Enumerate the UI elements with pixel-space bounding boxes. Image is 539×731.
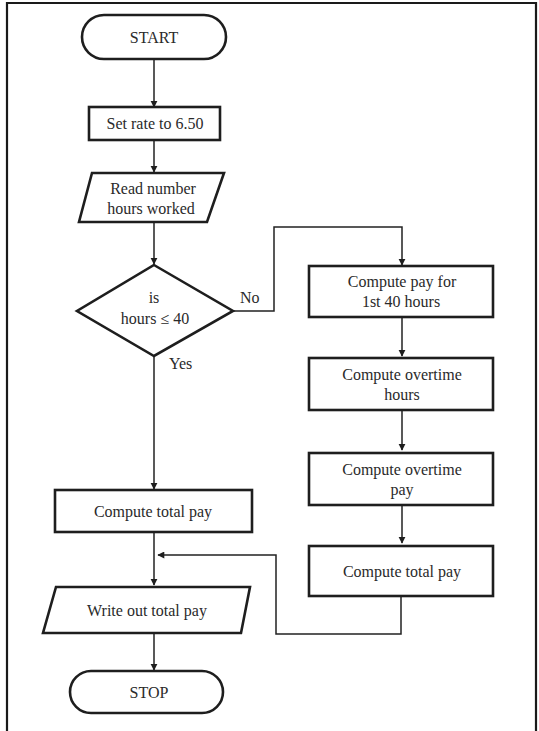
node-label: Compute overtime (342, 461, 462, 479)
flowchart-canvas: START Set rate to 6.50 Read number hours… (0, 0, 539, 731)
node-label: Compute overtime (342, 366, 462, 384)
node-label: STOP (130, 684, 169, 701)
node-decision: is hours ≤ 40 (77, 265, 233, 356)
node-label: hours worked (107, 200, 195, 217)
node-pay-first-40: Compute pay for 1st 40 hours (309, 266, 493, 317)
node-label: Compute pay for (348, 273, 457, 291)
node-label: 1st 40 hours (362, 293, 440, 310)
node-overtime-pay: Compute overtime pay (309, 453, 493, 505)
node-label: hours ≤ 40 (121, 310, 189, 327)
node-write-out: Write out total pay (43, 587, 250, 633)
node-label: START (130, 29, 179, 46)
node-start: START (82, 15, 226, 59)
node-stop: STOP (70, 671, 223, 713)
node-label: Compute total pay (94, 503, 212, 521)
node-overtime-hours: Compute overtime hours (309, 358, 493, 410)
node-label: Read number (110, 180, 196, 197)
edge-label-no: No (240, 289, 260, 306)
node-label: Set rate to 6.50 (107, 115, 204, 132)
node-label: pay (390, 481, 413, 499)
node-label: Compute total pay (343, 563, 461, 581)
node-read-hours: Read number hours worked (79, 173, 224, 222)
node-total-pay-right: Compute total pay (309, 546, 493, 596)
node-total-pay-left: Compute total pay (55, 490, 252, 532)
node-label: hours (384, 386, 420, 403)
node-label: is (149, 289, 160, 306)
edge-label-yes: Yes (169, 355, 192, 372)
node-label: Write out total pay (87, 602, 207, 620)
node-set-rate: Set rate to 6.50 (89, 107, 220, 140)
